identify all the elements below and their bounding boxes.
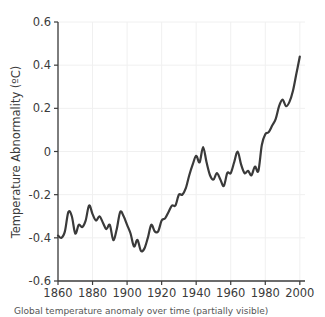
temperature-anomaly-line-chart: -0.6-0.4-0.200.20.40.6 18601880190019201… [0, 0, 325, 317]
y-tick-label: 0.4 [33, 58, 51, 72]
x-tick-label: 1940 [182, 286, 211, 300]
y-axis-title: Temperature Abnormality (ºC) [9, 66, 23, 240]
y-tick-label: 0.6 [33, 15, 51, 29]
x-tick-label: 1860 [43, 286, 72, 300]
x-tick-label: 1960 [216, 286, 245, 300]
y-tick-label: 0 [44, 145, 51, 159]
x-tick-label: 1880 [78, 286, 107, 300]
chart-figure: -0.6-0.4-0.200.20.40.6 18601880190019201… [0, 0, 325, 317]
x-tick-label: 1900 [112, 286, 141, 300]
x-tick-label: 2000 [285, 286, 314, 300]
y-tick-label: -0.2 [29, 188, 51, 202]
y-tick-label: 0.2 [33, 101, 51, 115]
x-tick-label: 1980 [251, 286, 280, 300]
y-tick-label: -0.4 [29, 231, 51, 245]
figure-caption: Global temperature anomaly over time (pa… [14, 306, 268, 316]
x-tick-label: 1920 [147, 286, 176, 300]
